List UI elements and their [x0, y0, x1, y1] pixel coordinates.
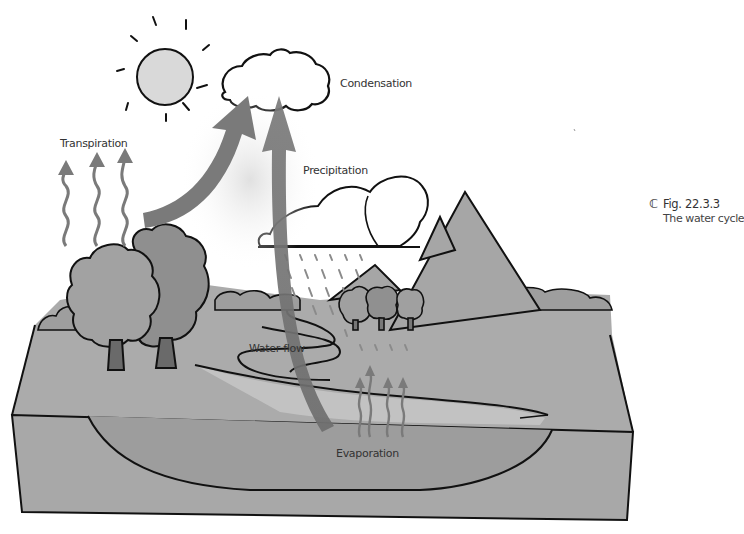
small-trees: [339, 286, 423, 330]
label-transpiration: Transpiration: [60, 137, 128, 150]
transpiration-arrows: [63, 158, 127, 246]
label-condensation: Condensation: [340, 77, 412, 90]
figure-title: The water cycle: [663, 212, 744, 225]
figure-number: Fig. 22.3.3: [663, 197, 720, 211]
sun-icon: [117, 17, 209, 121]
label-precipitation: Precipitation: [303, 164, 368, 177]
label-water-flow: Water flow: [249, 342, 305, 355]
label-evaporation: Evaporation: [336, 447, 399, 460]
cloud-c-icon: ℂ: [649, 197, 658, 211]
